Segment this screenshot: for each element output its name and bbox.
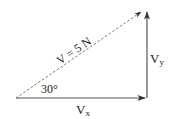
x-component-label: Vx bbox=[76, 102, 90, 118]
vector-diagram-canvas: V = 5 N 30° Vx Vy bbox=[0, 0, 170, 119]
y-component-label-sub: y bbox=[159, 57, 164, 67]
resultant-label: V = 5 N bbox=[54, 34, 94, 68]
x-component-label-sub: x bbox=[85, 108, 90, 118]
angle-label: 30° bbox=[41, 82, 58, 96]
vector-diagram: V = 5 N 30° Vx Vy bbox=[0, 0, 170, 119]
y-component-label: Vy bbox=[150, 51, 164, 67]
